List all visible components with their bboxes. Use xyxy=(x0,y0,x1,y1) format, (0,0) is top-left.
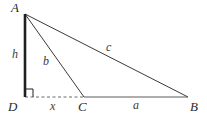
segment-ac xyxy=(25,14,84,97)
measure-label-h: h xyxy=(12,48,18,60)
measure-label-c: c xyxy=(106,41,111,53)
measure-label-x: x xyxy=(50,100,55,112)
measure-label-a: a xyxy=(133,99,139,111)
vertex-label-a: A xyxy=(11,1,19,14)
vertex-label-c: C xyxy=(78,100,87,113)
segment-ab xyxy=(25,14,188,97)
measure-label-b: b xyxy=(43,55,49,67)
vertex-label-d: D xyxy=(8,100,17,113)
geometry-diagram: A D C B h b c a x xyxy=(0,0,207,120)
vertex-label-b: B xyxy=(190,100,198,113)
diagram-canvas xyxy=(0,0,207,120)
